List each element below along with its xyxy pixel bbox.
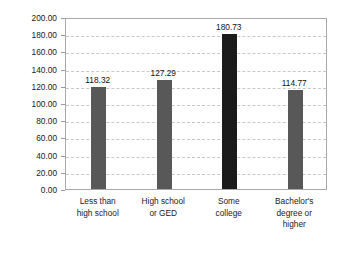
bar: [222, 34, 237, 189]
y-axis-tick-mark: [61, 52, 65, 53]
y-axis-tick-mark: [61, 104, 65, 105]
x-axis-category-labels: Less than high schoolHigh school or GEDS…: [65, 196, 327, 252]
bar: [288, 90, 303, 189]
y-axis-tick-mark: [61, 173, 65, 174]
y-axis-tick-mark: [61, 156, 65, 157]
plot-area: [65, 18, 327, 190]
y-axis-tick-mark: [61, 35, 65, 36]
bar-value-label: 114.77: [264, 79, 324, 88]
bar: [157, 80, 172, 189]
y-axis-tick-label: 120.00: [11, 82, 57, 91]
bar-value-label: 118.32: [68, 76, 128, 85]
bar-value-label: 180.73: [199, 23, 259, 32]
gridline: [66, 53, 326, 54]
y-axis-tick-label: 80.00: [11, 117, 57, 126]
y-axis-tick-mark: [61, 190, 65, 191]
y-axis-tick-mark: [61, 18, 65, 19]
gridline: [66, 36, 326, 37]
y-axis-tick-label: 0.00: [11, 186, 57, 195]
y-axis-tick-label: 180.00: [11, 31, 57, 40]
y-axis-tick-mark: [61, 87, 65, 88]
y-axis-tick-mark: [61, 121, 65, 122]
y-axis-tick-label: 100.00: [11, 100, 57, 109]
y-axis-tick-label: 200.00: [11, 14, 57, 23]
y-axis-tick-label: 60.00: [11, 134, 57, 143]
gridline: [66, 71, 326, 72]
y-axis-tick-label: 160.00: [11, 48, 57, 57]
y-axis-tick-mark: [61, 138, 65, 139]
y-axis-tick-label: 40.00: [11, 151, 57, 160]
bar: [91, 87, 106, 189]
bar-value-label: 127.29: [133, 69, 193, 78]
y-axis-tick-labels: 200.00180.00160.00140.00120.00100.0080.0…: [14, 18, 60, 190]
y-axis-tick-label: 20.00: [11, 168, 57, 177]
bar-chart: Episodes per 1,000 population 200.00180.…: [0, 0, 341, 256]
y-axis-tick-label: 140.00: [11, 65, 57, 74]
x-axis-category-label: Bachelor's degree or higher: [256, 196, 332, 231]
y-axis-tick-mark: [61, 70, 65, 71]
